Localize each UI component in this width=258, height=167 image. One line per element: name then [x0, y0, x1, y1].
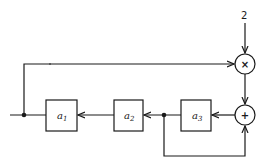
speck — [49, 63, 51, 65]
block-diagram: 2 × + a3 a2 a1 — [0, 0, 258, 167]
adder-symbol: + — [241, 110, 249, 121]
junction-dot-left — [22, 113, 27, 118]
input-label: 2 — [241, 10, 247, 21]
multiplier-symbol: × — [241, 59, 249, 70]
